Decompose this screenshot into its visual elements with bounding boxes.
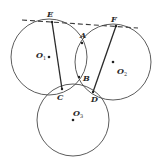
label-point-f: F: [110, 14, 118, 24]
point-f: [115, 25, 117, 27]
label-point-e: E: [46, 9, 54, 19]
point-c: [61, 88, 63, 90]
label-o1: O1: [36, 50, 46, 61]
point-d: [92, 91, 94, 93]
segment-fd: [93, 26, 116, 92]
labels: O1O2O3EFABCD: [36, 9, 127, 119]
center-o3: [72, 119, 75, 122]
label-o3: O3: [73, 108, 83, 119]
label-point-b: B: [82, 73, 90, 83]
circle-centers: [48, 56, 115, 122]
label-point-d: D: [90, 94, 98, 104]
label-point-a: A: [79, 30, 86, 40]
point-e: [51, 21, 53, 23]
diagram-svg: O1O2O3EFABCD: [0, 0, 160, 161]
center-o2: [112, 61, 115, 64]
geometry-diagram: O1O2O3EFABCD: [0, 0, 160, 161]
label-point-c: C: [57, 92, 64, 102]
center-o1: [48, 56, 51, 59]
segment-ec: [52, 22, 62, 89]
point-b: [78, 76, 80, 78]
point-a: [81, 42, 83, 44]
label-o2: O2: [117, 66, 127, 77]
tangent-line-dashed: [22, 20, 138, 28]
